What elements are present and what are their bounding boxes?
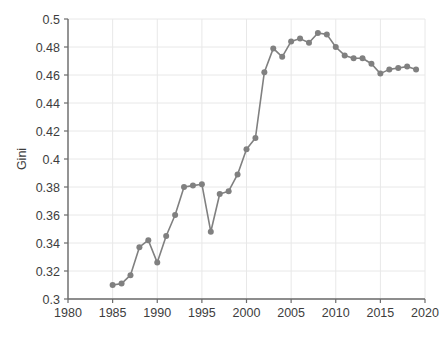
data-point — [163, 233, 169, 239]
y-tick-label: 0.32 — [36, 265, 60, 279]
y-tick-label: 0.48 — [36, 41, 60, 55]
x-tick-label: 1995 — [188, 306, 216, 320]
x-tick-label: 2000 — [233, 306, 261, 320]
data-point — [217, 191, 223, 197]
data-point — [199, 181, 205, 187]
x-tick-label: 2020 — [411, 306, 439, 320]
data-point — [315, 30, 321, 36]
x-tick-label: 2005 — [277, 306, 305, 320]
data-point — [386, 66, 392, 72]
data-point — [136, 244, 142, 250]
x-tick-label: 2015 — [366, 306, 394, 320]
y-tick-label: 0.3 — [43, 293, 60, 307]
data-point — [279, 54, 285, 60]
data-point — [324, 31, 330, 37]
data-point — [395, 65, 401, 71]
data-point — [377, 71, 383, 77]
data-point — [208, 229, 214, 235]
data-point — [368, 61, 374, 67]
data-point — [172, 212, 178, 218]
y-axis-title: Gini — [15, 148, 29, 170]
data-point — [190, 183, 196, 189]
data-point — [226, 188, 232, 194]
data-point — [404, 64, 410, 70]
y-tick-label: 0.36 — [36, 209, 60, 223]
y-tick-label: 0.5 — [43, 13, 60, 27]
data-point — [333, 44, 339, 50]
y-tick-label: 0.46 — [36, 69, 60, 83]
x-tick-label: 1980 — [54, 306, 82, 320]
data-point — [235, 171, 241, 177]
data-point — [154, 260, 160, 266]
chart-figure: 0.30.320.340.360.380.40.420.440.460.480.… — [0, 0, 446, 341]
data-point — [413, 66, 419, 72]
x-tick-label: 1990 — [143, 306, 171, 320]
data-point — [342, 52, 348, 58]
data-point — [127, 272, 133, 278]
y-tick-label: 0.34 — [36, 237, 60, 251]
y-tick-label: 0.44 — [36, 97, 60, 111]
data-point — [110, 282, 116, 288]
y-tick-label: 0.42 — [36, 125, 60, 139]
data-point — [181, 184, 187, 190]
data-point — [360, 55, 366, 61]
data-point — [145, 237, 151, 243]
data-point — [351, 55, 357, 61]
data-point — [288, 38, 294, 44]
data-point — [270, 45, 276, 51]
x-tick-labels: 198019851990199520002005201020152020 — [54, 306, 439, 320]
data-point — [306, 40, 312, 46]
y-tick-label: 0.38 — [36, 181, 60, 195]
x-tick-label: 2010 — [322, 306, 350, 320]
data-point — [244, 146, 250, 152]
data-point — [252, 135, 258, 141]
data-point — [261, 69, 267, 75]
y-tick-label: 0.4 — [43, 153, 60, 167]
gini-line-chart: 0.30.320.340.360.380.40.420.440.460.480.… — [0, 0, 446, 341]
x-tick-label: 1985 — [99, 306, 127, 320]
data-point — [297, 36, 303, 42]
data-point — [119, 281, 125, 287]
chart-background — [0, 0, 446, 341]
